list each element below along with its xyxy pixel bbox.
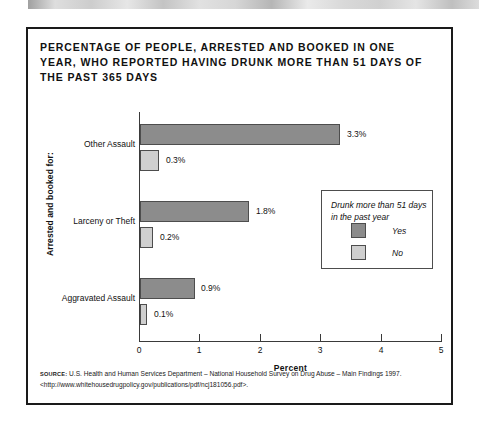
legend-entry-no[interactable]: No bbox=[351, 245, 431, 261]
category-label-larceny-or-theft: Larceny or Theft bbox=[31, 216, 135, 226]
x-tick-1 bbox=[199, 334, 200, 342]
bar-larceny-or-theft-no[interactable] bbox=[140, 227, 153, 248]
x-tick-5 bbox=[441, 334, 442, 342]
legend-entry-yes[interactable]: Yes bbox=[351, 223, 431, 239]
source-text: U.S. Health and Human Services Departmen… bbox=[69, 370, 401, 377]
bar-value-other-assault-yes: 3.3% bbox=[347, 129, 366, 139]
x-tick-label-0: 0 bbox=[127, 345, 151, 355]
bar-value-larceny-or-theft-yes: 1.8% bbox=[256, 206, 275, 216]
bar-value-other-assault-no: 0.3% bbox=[166, 155, 185, 165]
legend-label-no: No bbox=[392, 248, 403, 258]
bar-other-assault-yes[interactable] bbox=[140, 124, 340, 145]
legend-title: Drunk more than 51 days in the past year bbox=[331, 199, 429, 223]
legend: Drunk more than 51 days in the past year… bbox=[321, 190, 433, 269]
scan-artifact-strip bbox=[28, 0, 479, 9]
category-label-other-assault: Other Assault bbox=[31, 139, 135, 149]
figure-frame: PERCENTAGE OF PEOPLE, ARRESTED AND BOOKE… bbox=[26, 27, 453, 405]
legend-label-yes: Yes bbox=[392, 226, 406, 236]
bar-larceny-or-theft-yes[interactable] bbox=[140, 201, 249, 222]
x-tick-label-5: 5 bbox=[429, 345, 453, 355]
bar-aggravated-assault-yes[interactable] bbox=[140, 278, 195, 299]
category-labels: Other Assault Larceny or Theft Aggravate… bbox=[28, 29, 135, 407]
x-tick-label-4: 4 bbox=[369, 345, 393, 355]
bar-aggravated-assault-no[interactable] bbox=[140, 304, 147, 325]
x-tick-4 bbox=[381, 334, 382, 342]
bar-value-aggravated-assault-yes: 0.9% bbox=[201, 283, 220, 293]
x-tick-label-1: 1 bbox=[187, 345, 211, 355]
legend-swatch-yes bbox=[351, 223, 366, 238]
legend-swatch-no bbox=[351, 245, 366, 260]
category-label-aggravated-assault: Aggravated Assault bbox=[31, 293, 135, 303]
source-label: Source: bbox=[40, 371, 67, 377]
x-tick-0 bbox=[139, 334, 140, 342]
x-tick-2 bbox=[260, 334, 261, 342]
bar-value-larceny-or-theft-no: 0.2% bbox=[160, 232, 179, 242]
source-note: Source: U.S. Health and Human Services D… bbox=[40, 369, 442, 389]
plot-area: Arrested and booked for: Other Assault L… bbox=[28, 29, 455, 407]
x-tick-label-3: 3 bbox=[308, 345, 332, 355]
source-url: <http://www.whitehousedrugpolicy.gov/pub… bbox=[40, 381, 248, 388]
x-axis-line bbox=[139, 341, 442, 342]
x-tick-3 bbox=[320, 334, 321, 342]
x-tick-label-2: 2 bbox=[248, 345, 272, 355]
bar-value-aggravated-assault-no: 0.1% bbox=[154, 309, 173, 319]
bar-other-assault-no[interactable] bbox=[140, 150, 159, 171]
